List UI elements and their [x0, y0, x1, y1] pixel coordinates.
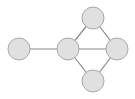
node-n4 [106, 38, 128, 60]
graph-nodes [8, 7, 128, 92]
node-n5 [82, 70, 104, 92]
node-n2 [57, 38, 79, 60]
node-n1 [8, 38, 30, 60]
graph-diagram [0, 0, 135, 99]
node-n3 [82, 7, 104, 29]
